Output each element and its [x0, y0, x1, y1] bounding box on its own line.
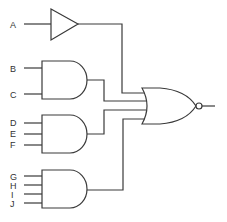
nor-gate [142, 88, 215, 124]
input-label-f: F [10, 140, 16, 150]
and-gate-2 [24, 110, 146, 153]
input-label-j: J [10, 199, 15, 209]
and-gate-1 [24, 61, 146, 101]
input-label-a: A [10, 20, 16, 30]
input-label-c: C [10, 90, 17, 100]
logic-circuit-diagram: A B C D E F G H I J [0, 0, 227, 222]
input-label-e: E [10, 129, 16, 139]
input-label-d: D [10, 118, 17, 128]
input-label-b: B [10, 64, 16, 74]
